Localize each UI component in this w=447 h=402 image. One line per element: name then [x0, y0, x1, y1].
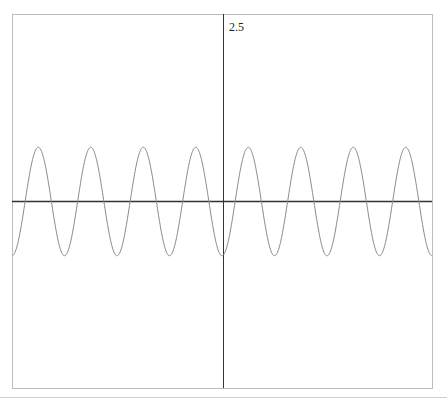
- y-max-label: 2.5: [229, 20, 244, 35]
- bottom-divider: [0, 397, 447, 398]
- function-plot: [0, 0, 447, 402]
